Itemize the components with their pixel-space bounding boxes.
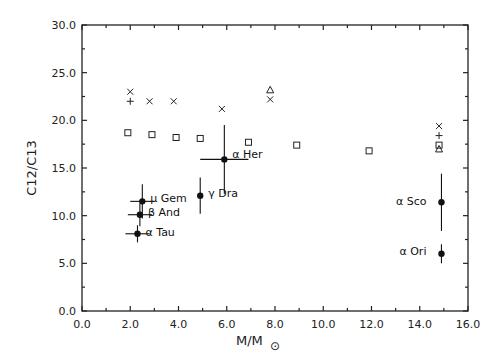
star-point: α Tau [125,225,174,242]
data-markers [125,86,443,154]
filled-circle-marker [139,198,145,204]
filled-circle-marker [221,156,227,162]
star-point: γ Dra [197,178,238,214]
square-marker [366,148,372,154]
x-tick-label: 0.0 [73,318,91,331]
y-tick-label: 5.0 [59,257,77,270]
square-marker [197,135,203,141]
y-axis: 0.05.010.015.020.025.030.0 [52,19,469,318]
star-label: β And [148,206,180,219]
star-label: α Her [232,148,263,161]
x-marker [147,98,153,104]
x-tick-label: 8.0 [266,318,284,331]
triangle-marker [436,145,443,152]
star-label: γ Dra [208,187,238,200]
square-marker [294,142,300,148]
plot-frame [82,25,468,311]
x-tick-label: 12.0 [359,318,384,331]
x-tick-label: 16.0 [456,318,481,331]
x-axis-title: M/M ⊙ [236,333,280,353]
y-tick-label: 15.0 [52,162,77,175]
y-axis-title: C12/C13 [24,140,39,196]
scatter-chart: 0.05.010.015.020.025.030.0 0.02.04.06.08… [0,0,496,361]
star-label: α Tau [145,226,174,239]
x-axis-title-main: M/M [236,333,263,348]
filled-circle-marker [438,251,444,257]
plot-border [82,25,468,311]
y-tick-label: 10.0 [52,210,77,223]
square-marker [245,139,251,145]
star-label: α Ori [399,245,426,258]
square-marker [125,130,131,136]
square-marker [149,132,155,138]
star-point: β And [128,203,180,226]
x-tick-label: 6.0 [218,318,236,331]
x-tick-label: 14.0 [408,318,433,331]
x-marker [267,96,273,102]
solar-symbol: ⊙ [270,339,280,353]
filled-circle-marker [438,199,444,205]
plus-marker [436,132,443,139]
star-point: α Sco [396,174,445,231]
star-label: α Sco [396,195,427,208]
triangle-marker [267,86,274,93]
y-tick-label: 20.0 [52,114,77,127]
y-tick-label: 30.0 [52,19,77,32]
x-marker [219,106,225,112]
star-point: α Ori [399,244,444,263]
square-marker [173,134,179,140]
x-tick-label: 2.0 [122,318,140,331]
star-label: μ Gem [150,192,187,205]
x-axis: 0.02.04.06.08.010.012.014.016.0 [73,25,480,331]
x-tick-label: 10.0 [311,318,336,331]
x-marker [171,98,177,104]
observed-stars: α Tauβ Andμ Gemγ Draα Herα Scoα Ori [125,125,444,263]
x-marker [127,89,133,95]
x-marker [436,123,442,129]
star-point: α Her [200,125,263,194]
filled-circle-marker [134,231,140,237]
y-tick-label: 0.0 [59,305,77,318]
y-tick-label: 25.0 [52,67,77,80]
plus-marker [127,98,134,105]
x-tick-label: 4.0 [170,318,188,331]
filled-circle-marker [197,192,203,198]
